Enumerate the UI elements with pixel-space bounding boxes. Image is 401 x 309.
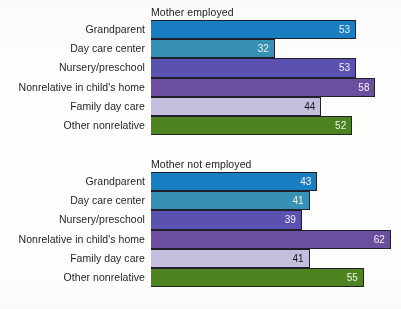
- panel-title-mother-employed: Mother employed: [151, 6, 234, 18]
- category-label: Family day care: [70, 249, 145, 268]
- plot-area-mother-employed: Grandparent53Day care center32Nursery/pr…: [0, 20, 401, 136]
- bar-value-label: 58: [353, 78, 369, 97]
- panel-title-mother-not-employed: Mother not employed: [151, 158, 252, 170]
- bar: [151, 58, 356, 77]
- bar: [151, 78, 375, 97]
- category-label: Day care center: [70, 39, 145, 58]
- bar-row: Day care center32: [0, 39, 401, 58]
- bar-row: Day care center41: [0, 191, 401, 210]
- bar-row: Nursery/preschool53: [0, 58, 401, 77]
- bar-row: Nonrelative in child's home58: [0, 78, 401, 97]
- bar-row: Grandparent43: [0, 172, 401, 191]
- bar: [151, 268, 364, 287]
- category-label: Grandparent: [85, 20, 145, 39]
- bar-value-label: 43: [295, 172, 311, 191]
- category-label: Other nonrelative: [64, 268, 145, 287]
- bar-row: Family day care44: [0, 97, 401, 116]
- bar-row: Nonrelative in child's home62: [0, 230, 401, 249]
- bar-value-label: 41: [288, 191, 304, 210]
- bar-value-label: 53: [334, 58, 350, 77]
- plot-area-mother-not-employed: Grandparent43Day care center41Nursery/pr…: [0, 172, 401, 288]
- category-label: Family day care: [70, 97, 145, 116]
- category-label: Nursery/preschool: [59, 58, 145, 77]
- bar-value-label: 32: [253, 39, 269, 58]
- bar-row: Family day care41: [0, 249, 401, 268]
- bar-row: Grandparent53: [0, 20, 401, 39]
- category-label: Day care center: [70, 191, 145, 210]
- bar-value-label: 41: [288, 249, 304, 268]
- category-label: Other nonrelative: [64, 116, 145, 135]
- bar-value-label: 62: [369, 230, 385, 249]
- bar: [151, 20, 356, 39]
- bar-row: Other nonrelative52: [0, 116, 401, 135]
- bar-value-label: 52: [330, 116, 346, 135]
- bar-row: Nursery/preschool39: [0, 210, 401, 229]
- bar: [151, 191, 310, 210]
- bar: [151, 116, 352, 135]
- bar: [151, 230, 391, 249]
- bar-value-label: 44: [299, 97, 315, 116]
- category-label: Nonrelative in child's home: [19, 78, 146, 97]
- bar: [151, 97, 321, 116]
- category-label: Nonrelative in child's home: [19, 230, 146, 249]
- category-label: Grandparent: [85, 172, 145, 191]
- bar-value-label: 53: [334, 20, 350, 39]
- bar: [151, 172, 317, 191]
- bar-value-label: 55: [342, 268, 358, 287]
- chart-figure: Mother employed Grandparent53Day care ce…: [0, 0, 401, 309]
- bar-value-label: 39: [280, 210, 296, 229]
- category-label: Nursery/preschool: [59, 210, 145, 229]
- bar-row: Other nonrelative55: [0, 268, 401, 287]
- bar: [151, 249, 310, 268]
